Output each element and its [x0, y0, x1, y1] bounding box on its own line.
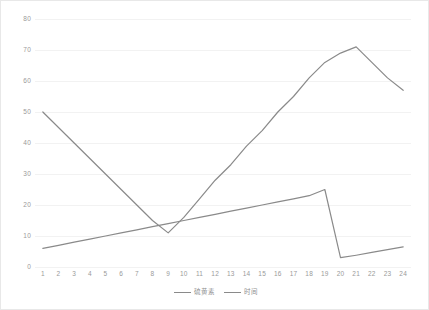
y-tick-label: 30 [23, 171, 31, 178]
y-tick-label: 20 [23, 202, 31, 209]
x-tick-label: 19 [321, 271, 329, 278]
x-tick-label: 7 [135, 271, 139, 278]
x-tick-label: 10 [180, 271, 188, 278]
y-tick-label: 10 [23, 233, 31, 240]
y-tick-label: 60 [23, 78, 31, 85]
chart-legend: 硫黄素时间 [1, 289, 429, 296]
legend-entry-2[interactable]: 时间 [224, 289, 258, 296]
y-tick-label: 70 [23, 47, 31, 54]
x-tick-label: 13 [227, 271, 235, 278]
legend-label: 时间 [244, 289, 258, 296]
legend-line-icon [224, 292, 241, 293]
legend-line-icon [174, 292, 191, 293]
x-tick-label: 4 [88, 271, 92, 278]
x-tick-label: 24 [399, 271, 407, 278]
x-tick-label: 11 [196, 271, 203, 278]
x-tick-label: 1 [41, 271, 45, 278]
x-tick-label: 5 [104, 271, 108, 278]
chart-figure: 01020304050607080 1234567891011121314151… [0, 0, 429, 310]
x-tick-label: 22 [368, 271, 376, 278]
y-tick-label: 50 [23, 109, 31, 116]
y-axis-tick-labels: 01020304050607080 [1, 19, 31, 267]
legend-label: 硫黄素 [194, 289, 215, 296]
x-axis-tick-labels: 123456789101112131415161718192021222324 [35, 271, 411, 283]
legend-entry-1[interactable]: 硫黄素 [174, 289, 215, 296]
x-tick-label: 23 [384, 271, 392, 278]
x-tick-label: 8 [151, 271, 155, 278]
x-tick-label: 20 [337, 271, 345, 278]
y-tick-label: 80 [23, 16, 31, 23]
y-tick-label: 40 [23, 140, 31, 147]
x-tick-label: 16 [274, 271, 282, 278]
x-tick-label: 21 [352, 271, 360, 278]
series-line-1 [43, 47, 403, 233]
x-tick-label: 17 [290, 271, 298, 278]
x-tick-label: 15 [258, 271, 266, 278]
x-tick-label: 2 [57, 271, 61, 278]
x-tick-label: 9 [166, 271, 170, 278]
x-tick-label: 3 [72, 271, 76, 278]
series-line-2 [43, 190, 403, 258]
plot-area [35, 19, 411, 267]
x-tick-label: 14 [243, 271, 251, 278]
x-tick-label: 6 [119, 271, 123, 278]
x-tick-label: 18 [305, 271, 313, 278]
x-tick-label: 12 [211, 271, 219, 278]
y-tick-label: 0 [27, 264, 31, 271]
series-lines [35, 19, 411, 267]
